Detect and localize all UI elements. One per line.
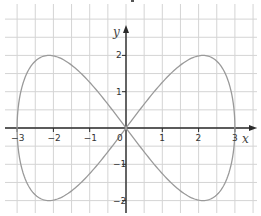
- x-tick-label: 3: [232, 133, 238, 143]
- y-tick-label: −1: [113, 159, 126, 169]
- y-axis-label: y: [112, 25, 120, 39]
- x-axis-label: x: [242, 132, 249, 146]
- x-tick-label: −2: [47, 133, 60, 143]
- cropped-caption-fragment: [131, 0, 134, 2]
- y-tick-label: 1: [116, 87, 122, 97]
- y-tick-label: 2: [116, 50, 122, 60]
- x-tick-labels: −3−2−1123: [11, 133, 238, 143]
- x-tick-label: −1: [84, 133, 97, 143]
- x-tick-label: 2: [196, 133, 202, 143]
- chart: x y 0 −3−2−1123 21−1−2: [0, 0, 261, 216]
- y-axis-arrow-icon: [123, 25, 129, 33]
- x-tick-label: −3: [11, 133, 24, 143]
- axes: [5, 25, 257, 213]
- y-tick-label: −2: [113, 196, 126, 206]
- grid-lines: [5, 4, 257, 213]
- x-tick-label: 1: [159, 133, 165, 143]
- origin-label: 0: [117, 133, 123, 143]
